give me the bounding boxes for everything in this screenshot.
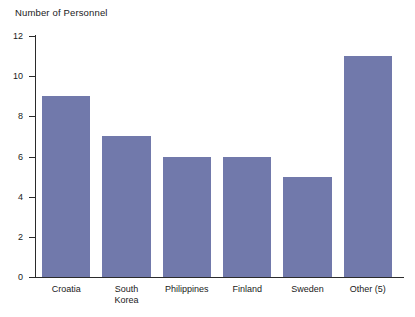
y-axis-tick	[29, 237, 36, 238]
y-axis-tick-label: 6	[0, 152, 23, 162]
bar	[42, 96, 90, 277]
bar	[223, 157, 271, 278]
chart-title: Number of Personnel	[15, 7, 108, 18]
y-axis-tick	[29, 76, 36, 77]
y-axis-tick-label: 0	[0, 272, 23, 282]
x-axis-line	[35, 277, 404, 278]
bar	[344, 56, 392, 277]
y-axis-tick	[29, 36, 36, 37]
y-axis-tick-label: 4	[0, 192, 23, 202]
bar	[283, 177, 331, 277]
y-axis-tick-label: 8	[0, 111, 23, 121]
x-axis-category-label: Other (5)	[338, 284, 398, 295]
x-axis-category-label: Finland	[217, 284, 277, 295]
y-axis-tick-label: 2	[0, 232, 23, 242]
x-axis-label-line: Other (5)	[338, 284, 398, 295]
y-axis-tick-label: 10	[0, 71, 23, 81]
y-axis-tick	[29, 157, 36, 158]
y-axis-tick	[29, 277, 36, 278]
x-axis-category-label: Philippines	[157, 284, 217, 295]
x-axis-label-line: Sweden	[277, 284, 337, 295]
x-axis-label-line: Finland	[217, 284, 277, 295]
x-axis-category-label: Croatia	[36, 284, 96, 295]
x-axis-label-line: Korea	[96, 295, 156, 306]
y-axis-tick	[29, 116, 36, 117]
x-axis-label-line: Croatia	[36, 284, 96, 295]
x-axis-category-label: SouthKorea	[96, 284, 156, 306]
y-axis-tick-label: 12	[0, 31, 23, 41]
bar-chart-figure: Number of Personnel 024681012 CroatiaSou…	[0, 0, 415, 317]
x-axis-category-label: Sweden	[277, 284, 337, 295]
bar	[102, 136, 150, 277]
x-axis-label-line: South	[96, 284, 156, 295]
bar	[163, 157, 211, 278]
y-axis-tick	[29, 197, 36, 198]
x-axis-label-line: Philippines	[157, 284, 217, 295]
